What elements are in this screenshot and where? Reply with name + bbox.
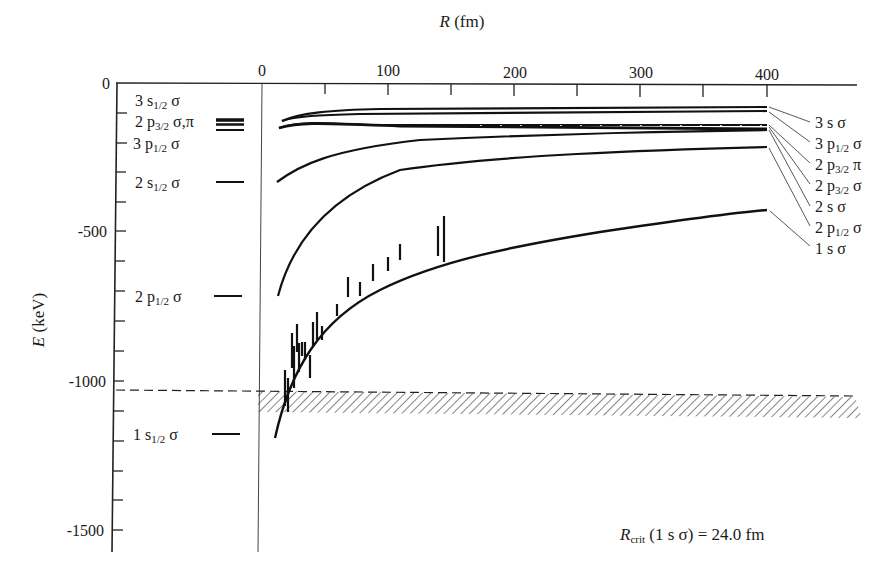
svg-text:-1500: -1500 — [67, 522, 104, 539]
curve-2p12-sigma — [278, 147, 767, 296]
y-tick-labels: 0 -500 -1000 -1500 — [67, 75, 110, 539]
svg-text:3 s1/2 σ: 3 s1/2 σ — [135, 92, 180, 111]
svg-text:300: 300 — [629, 64, 653, 81]
x-axis-line — [116, 83, 857, 85]
svg-text:2 s1/2 σ: 2 s1/2 σ — [135, 174, 180, 193]
critical-radius-annotation: Rcrit (1 s σ) = 24.0 fm — [619, 525, 764, 545]
left-level-bars — [212, 120, 244, 434]
svg-text:2 p1/2 σ: 2 p1/2 σ — [135, 288, 182, 307]
x-tick-labels: 0 100 200 300 400 — [258, 62, 779, 83]
curve-2s-sigma — [277, 130, 767, 182]
svg-text:2 s σ: 2 s σ — [815, 198, 846, 215]
y-ticks — [113, 113, 127, 530]
svg-text:2 p3/2 σ: 2 p3/2 σ — [815, 177, 862, 196]
x-axis-title: R (fm) — [439, 12, 485, 31]
svg-text:100: 100 — [376, 62, 400, 79]
svg-text:200: 200 — [503, 64, 527, 81]
svg-text:-500: -500 — [78, 223, 107, 240]
x-ticks — [325, 84, 767, 97]
svg-text:1 s1/2 σ: 1 s1/2 σ — [133, 426, 178, 445]
svg-text:2 p3/2 σ,π: 2 p3/2 σ,π — [135, 113, 194, 132]
correlation-curves — [275, 107, 767, 438]
negative-energy-continuum-hatch — [258, 391, 862, 418]
svg-text:2 p3/2 π: 2 p3/2 π — [815, 156, 861, 175]
svg-text:-1000: -1000 — [69, 373, 106, 390]
energy-level-chart: R (fm) 0 100 200 300 400 0 -500 -1000 -1… — [0, 0, 896, 583]
experimental-error-bars — [285, 216, 444, 412]
svg-text:400: 400 — [755, 66, 779, 83]
svg-text:0: 0 — [258, 62, 266, 79]
left-level-labels: 3 s1/2 σ 2 p3/2 σ,π 3 p1/2 σ 2 s1/2 σ 2 … — [133, 92, 194, 445]
svg-text:3 p1/2 σ: 3 p1/2 σ — [815, 135, 862, 154]
legend-leader-lines — [769, 107, 810, 246]
svg-text:3 p1/2 σ: 3 p1/2 σ — [133, 135, 180, 154]
svg-text:3 s σ: 3 s σ — [815, 114, 846, 131]
svg-text:0: 0 — [102, 75, 110, 92]
curve-3p12-sigma — [282, 111, 767, 121]
right-legend-labels: 3 s σ 3 p1/2 σ 2 p3/2 π 2 p3/2 σ 2 s σ 2… — [815, 114, 862, 257]
y-axis-line — [112, 83, 117, 552]
r-zero-line — [258, 84, 262, 552]
svg-text:1 s σ: 1 s σ — [815, 240, 846, 257]
svg-text:2 p1/2 σ: 2 p1/2 σ — [815, 219, 862, 238]
y-axis-title: E (keV) — [29, 293, 48, 348]
